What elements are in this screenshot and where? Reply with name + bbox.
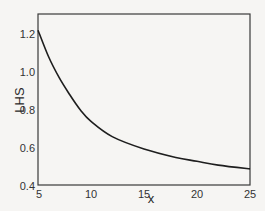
lhs-curve <box>38 30 250 169</box>
y-axis-label: LHS <box>12 87 27 113</box>
x-axis-label: x <box>148 191 155 206</box>
x-tick-label: 10 <box>85 188 97 200</box>
x-tick-label: 25 <box>244 188 256 200</box>
y-tick-label: 1.2 <box>20 28 35 40</box>
y-tick-label: 1.0 <box>20 66 35 78</box>
line-chart: 0.40.60.81.01.2 510152025 LHS x <box>0 0 265 211</box>
y-tick-label: 0.6 <box>20 142 35 154</box>
plot-frame <box>38 14 250 185</box>
x-tick-label: 5 <box>36 188 42 200</box>
x-axis-ticks: 510152025 <box>36 188 256 200</box>
y-tick-label: 0.4 <box>20 180 35 192</box>
x-tick-label: 20 <box>191 188 203 200</box>
